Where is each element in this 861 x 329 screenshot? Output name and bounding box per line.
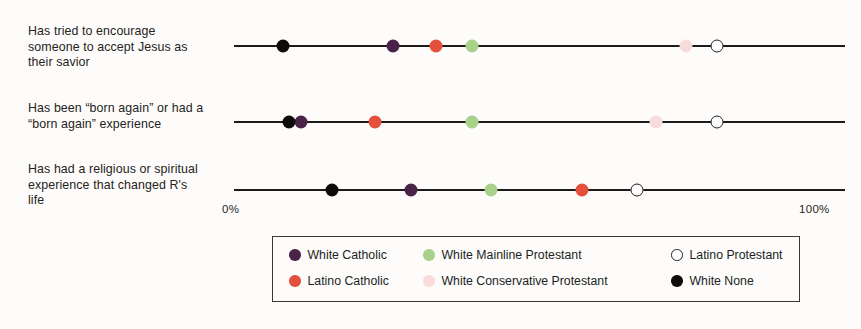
axis-tick-max: 100% — [799, 203, 830, 215]
legend-item-white-catholic[interactable]: White Catholic — [289, 248, 387, 262]
data-point-latino-protestant-row-0 — [710, 40, 723, 53]
data-point-latino-catholic-row-1 — [368, 116, 381, 129]
chart-legend: White CatholicWhite Mainline ProtestantL… — [272, 236, 800, 302]
legend-swatch-icon — [423, 275, 435, 287]
legend-swatch-icon — [289, 275, 301, 287]
dot-plot-chart: Has tried to encourage someone to accept… — [0, 0, 861, 329]
data-point-latino-catholic-row-2 — [576, 184, 589, 197]
data-point-white-mainline-protestant-row-0 — [466, 40, 479, 53]
legend-item-label: White None — [690, 274, 754, 288]
data-point-white-catholic-row-0 — [386, 40, 399, 53]
axis-line-row-0 — [234, 45, 845, 47]
data-point-white-mainline-protestant-row-2 — [484, 184, 497, 197]
legend-item-white-none[interactable]: White None — [671, 274, 754, 288]
legend-item-latino-protestant[interactable]: Latino Protestant — [671, 248, 782, 262]
legend-item-label: Latino Protestant — [690, 248, 783, 262]
legend-swatch-icon — [423, 249, 435, 261]
data-point-latino-protestant-row-1 — [710, 116, 723, 129]
row-label-1: Has been “born again” or had a “born aga… — [28, 101, 233, 132]
legend-item-label: White Catholic — [308, 248, 387, 262]
data-point-latino-protestant-row-2 — [631, 184, 644, 197]
legend-item-label: White Mainline Protestant — [442, 248, 582, 262]
legend-item-white-mainline-protestant[interactable]: White Mainline Protestant — [423, 248, 582, 262]
data-point-white-none-row-0 — [276, 40, 289, 53]
data-point-white-catholic-row-2 — [405, 184, 418, 197]
data-point-white-conservative-protestant-row-1 — [649, 116, 662, 129]
data-point-white-none-row-1 — [282, 116, 295, 129]
axis-line-row-1 — [234, 121, 845, 123]
data-point-white-conservative-protestant-row-0 — [680, 40, 693, 53]
axis-tick-min: 0% — [222, 203, 239, 215]
legend-swatch-icon — [671, 249, 683, 261]
data-point-white-none-row-2 — [325, 184, 338, 197]
legend-item-label: Latino Catholic — [308, 274, 389, 288]
data-point-white-mainline-protestant-row-1 — [466, 116, 479, 129]
legend-swatch-icon — [671, 275, 683, 287]
legend-item-white-conservative-protestant[interactable]: White Conservative Protestant — [423, 274, 608, 288]
legend-item-latino-catholic[interactable]: Latino Catholic — [289, 274, 389, 288]
data-point-latino-catholic-row-0 — [429, 40, 442, 53]
legend-swatch-icon — [289, 249, 301, 261]
row-label-2: Has had a religious or spiritual experie… — [28, 162, 233, 209]
data-point-white-catholic-row-1 — [295, 116, 308, 129]
row-label-0: Has tried to encourage someone to accept… — [28, 24, 233, 71]
legend-item-label: White Conservative Protestant — [442, 274, 608, 288]
